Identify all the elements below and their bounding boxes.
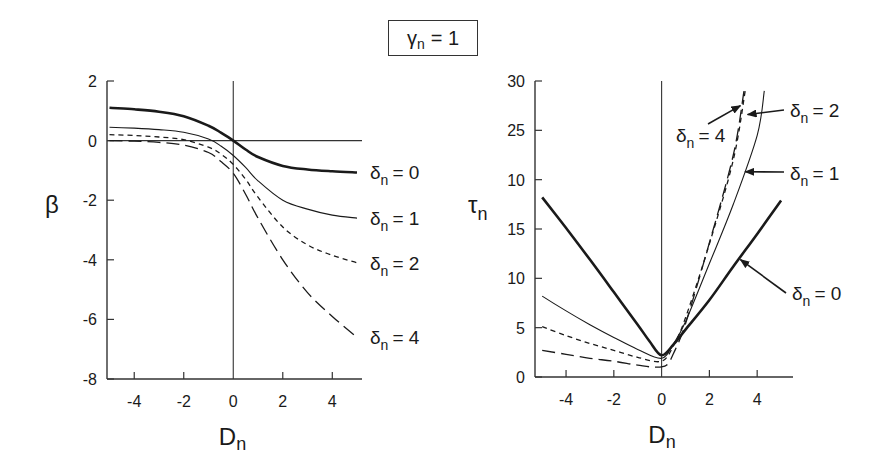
series-label: δn= 1 bbox=[790, 163, 839, 189]
x-tick-label: 2 bbox=[278, 393, 287, 410]
x-tick-label: -2 bbox=[607, 391, 621, 408]
y-tick-label: 10 bbox=[507, 172, 525, 189]
y-tick-label: 5 bbox=[516, 320, 525, 337]
y-tick-label: 0 bbox=[516, 369, 525, 386]
y-tick-label: -6 bbox=[83, 311, 97, 328]
y-tick-label: 0 bbox=[88, 133, 97, 150]
y-tick-label: 15 bbox=[507, 221, 525, 238]
x-axis-label: Dn bbox=[648, 421, 675, 452]
x-tick-label: -4 bbox=[559, 391, 573, 408]
series-label: δn= 2 bbox=[370, 253, 419, 279]
x-tick-label: 4 bbox=[753, 391, 762, 408]
y-tick-label: -2 bbox=[83, 192, 97, 209]
series-label: δn= 0 bbox=[792, 283, 841, 309]
series-label: δn= 4 bbox=[676, 125, 726, 151]
beta-chart: 20-2-4-6-8-4-2024Dnβδn= 0δn= 1δn= 2δn= 4 bbox=[45, 73, 420, 454]
x-tick-label: -4 bbox=[127, 393, 141, 410]
y-tick-label: 30 bbox=[507, 73, 525, 90]
x-tick-label: -2 bbox=[177, 393, 191, 410]
y-axis-label: β bbox=[45, 191, 59, 218]
y-tick-label: 25 bbox=[507, 122, 525, 139]
x-tick-label: 0 bbox=[657, 391, 666, 408]
y-tick-label: -4 bbox=[83, 252, 97, 269]
annotation-arrow bbox=[748, 110, 784, 115]
y-tick-label: 10 bbox=[507, 270, 525, 287]
annotation-arrow bbox=[740, 260, 786, 293]
series-label: δn= 4 bbox=[370, 327, 420, 353]
series-label: δn= 0 bbox=[370, 162, 419, 188]
x-tick-label: 4 bbox=[328, 393, 337, 410]
x-axis-label: Dn bbox=[219, 423, 246, 454]
y-axis-label: τn bbox=[468, 191, 488, 224]
y-tick-label: -8 bbox=[83, 371, 97, 388]
series-line bbox=[542, 91, 764, 358]
x-tick-label: 2 bbox=[705, 391, 714, 408]
series-label: δn= 1 bbox=[370, 208, 419, 234]
tau-chart: 051015102530-4-2024Dnτnδn= 4δn= 2δn= 1δn… bbox=[468, 73, 841, 452]
annotation-arrow bbox=[708, 106, 740, 124]
x-tick-label: 0 bbox=[229, 393, 238, 410]
y-tick-label: 2 bbox=[88, 73, 97, 90]
series-label: δn= 2 bbox=[790, 100, 839, 126]
figure-canvas: 20-2-4-6-8-4-2024Dnβδn= 0δn= 1δn= 2δn= 4… bbox=[0, 0, 875, 465]
